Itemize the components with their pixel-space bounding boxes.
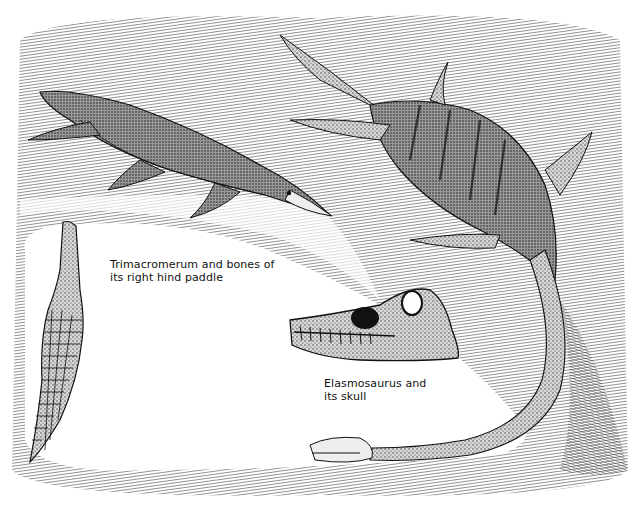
caption-elasmosaurus-line2: its skull [324, 390, 426, 403]
caption-elasmosaurus-line1: Elasmosaurus and [324, 377, 426, 390]
caption-elasmosaurus: Elasmosaurus and its skull [324, 377, 426, 403]
caption-trimacromerum-line2: its right hind paddle [110, 271, 274, 284]
caption-trimacromerum: Trimacromerum and bones of its right hin… [110, 258, 274, 284]
caption-trimacromerum-line1: Trimacromerum and bones of [110, 258, 274, 271]
marine-reptile-illustration [0, 0, 636, 505]
illustration-canvas: Trimacromerum and bones of its right hin… [0, 0, 636, 505]
